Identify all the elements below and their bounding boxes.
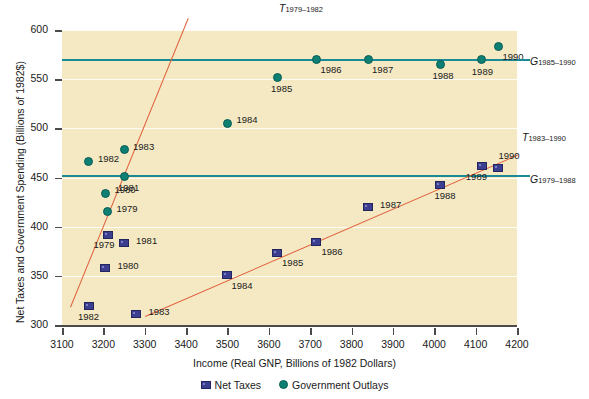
leader-g-1979-1988 bbox=[517, 175, 530, 177]
y-tick bbox=[55, 30, 62, 32]
data-point-net-taxes-1983 bbox=[131, 310, 141, 318]
point-label-net-taxes-1986: 1986 bbox=[321, 246, 342, 257]
data-point-net-taxes-1984 bbox=[222, 271, 232, 279]
x-tick bbox=[476, 328, 478, 335]
x-tick-label: 4000 bbox=[414, 338, 454, 350]
annotation-g-1979-1988: G1979–1988 bbox=[530, 173, 576, 185]
data-point-net-taxes-1979 bbox=[103, 231, 113, 239]
gridline bbox=[62, 128, 517, 129]
data-point-net-taxes-1980 bbox=[100, 264, 110, 272]
y-tick-label: 600 bbox=[14, 23, 48, 35]
circle-marker-icon bbox=[279, 380, 288, 389]
x-tick-label: 3500 bbox=[207, 338, 247, 350]
x-tick bbox=[517, 328, 519, 335]
y-tick bbox=[55, 128, 62, 130]
chart-figure: 1979198019811982198319841985198619871988… bbox=[0, 0, 589, 399]
x-tick-label: 3400 bbox=[166, 338, 206, 350]
data-point-net-taxes-1985 bbox=[272, 249, 282, 257]
point-label-net-taxes-1987: 1987 bbox=[380, 199, 401, 210]
x-axis-line bbox=[62, 325, 517, 327]
point-label-government-outlays-1988: 1988 bbox=[432, 70, 453, 81]
data-point-net-taxes-1986 bbox=[311, 238, 321, 246]
data-point-government-outlays-1983 bbox=[120, 145, 129, 154]
point-label-government-outlays-1985: 1985 bbox=[271, 83, 292, 94]
point-label-government-outlays-1989: 1989 bbox=[472, 66, 493, 77]
x-tick bbox=[103, 328, 105, 335]
data-point-net-taxes-1989 bbox=[477, 162, 487, 170]
x-tick-label: 3300 bbox=[125, 338, 165, 350]
point-label-government-outlays-1981: 1981 bbox=[118, 182, 139, 193]
data-point-net-taxes-1987 bbox=[363, 203, 373, 211]
x-tick bbox=[310, 328, 312, 335]
data-point-government-outlays-1988 bbox=[436, 60, 445, 69]
legend-item-net-taxes[interactable]: Net Taxes bbox=[201, 378, 262, 391]
point-label-net-taxes-1990: 1990 bbox=[498, 150, 519, 161]
x-tick-label: 4200 bbox=[497, 338, 537, 350]
x-tick-label: 3600 bbox=[249, 338, 289, 350]
x-tick bbox=[186, 328, 188, 335]
annotation-g-1985-1990: G1985–1990 bbox=[530, 55, 576, 67]
y-tick bbox=[55, 325, 62, 327]
x-tick bbox=[352, 328, 354, 335]
x-tick bbox=[269, 328, 271, 335]
x-tick bbox=[393, 328, 395, 335]
x-tick-label: 3100 bbox=[42, 338, 82, 350]
point-label-government-outlays-1979: 1979 bbox=[117, 203, 138, 214]
point-label-net-taxes-1984: 1984 bbox=[231, 280, 252, 291]
point-label-government-outlays-1987: 1987 bbox=[372, 64, 393, 75]
x-tick bbox=[62, 328, 64, 335]
point-label-net-taxes-1982: 1982 bbox=[78, 311, 99, 322]
leader-g-1985-1990 bbox=[517, 59, 530, 61]
point-label-government-outlays-1984: 1984 bbox=[236, 114, 257, 125]
square-marker-icon bbox=[201, 381, 211, 389]
x-tick-label: 3900 bbox=[373, 338, 413, 350]
x-tick-label: 3700 bbox=[290, 338, 330, 350]
data-point-net-taxes-1982 bbox=[84, 302, 94, 310]
x-tick-label: 3800 bbox=[332, 338, 372, 350]
x-tick bbox=[227, 328, 229, 335]
x-tick-label: 3200 bbox=[83, 338, 123, 350]
x-tick bbox=[434, 328, 436, 335]
reference-line-g-1985-1990 bbox=[62, 59, 517, 61]
gridline bbox=[62, 276, 517, 277]
gridline bbox=[62, 178, 517, 179]
y-tick bbox=[55, 178, 62, 180]
point-label-government-outlays-1983: 1983 bbox=[133, 141, 154, 152]
y-tick bbox=[55, 79, 62, 81]
annotation-t-1979-1982: T1979–1982 bbox=[279, 2, 323, 14]
x-tick bbox=[145, 328, 147, 335]
data-point-government-outlays-1980 bbox=[101, 189, 110, 198]
reference-line-g-1979-1988 bbox=[62, 175, 517, 177]
x-axis-title: Income (Real GNP, Billions of 1982 Dolla… bbox=[0, 357, 589, 369]
legend-item-government-outlays[interactable]: Government Outlays bbox=[279, 378, 388, 391]
point-label-net-taxes-1988: 1988 bbox=[434, 190, 455, 201]
point-label-net-taxes-1985: 1985 bbox=[282, 257, 303, 268]
y-tick bbox=[55, 276, 62, 278]
point-label-government-outlays-1982: 1982 bbox=[98, 153, 119, 164]
point-label-net-taxes-1979: 1979 bbox=[94, 239, 115, 250]
point-label-net-taxes-1983: 1983 bbox=[148, 306, 169, 317]
data-point-government-outlays-1985 bbox=[273, 73, 282, 82]
legend-label: Net Taxes bbox=[215, 379, 262, 391]
annotation-t-1983-1990: T1983–1990 bbox=[522, 131, 566, 143]
point-label-net-taxes-1989: 1989 bbox=[466, 171, 487, 182]
y-axis-title: Net Taxes and Government Spending (Billi… bbox=[14, 61, 26, 323]
data-point-net-taxes-1981 bbox=[119, 239, 129, 247]
data-point-net-taxes-1990 bbox=[493, 164, 503, 172]
chart-legend: Net TaxesGovernment Outlays bbox=[0, 377, 589, 391]
y-tick bbox=[55, 227, 62, 229]
legend-label: Government Outlays bbox=[292, 379, 388, 391]
point-label-net-taxes-1980: 1980 bbox=[117, 260, 138, 271]
point-label-government-outlays-1986: 1986 bbox=[320, 64, 341, 75]
data-point-government-outlays-1981 bbox=[120, 172, 129, 181]
gridline bbox=[62, 30, 517, 31]
data-point-net-taxes-1988 bbox=[435, 181, 445, 189]
gridline bbox=[62, 227, 517, 228]
point-label-net-taxes-1981: 1981 bbox=[136, 235, 157, 246]
x-tick-label: 4100 bbox=[456, 338, 496, 350]
data-point-government-outlays-1984 bbox=[223, 119, 232, 128]
